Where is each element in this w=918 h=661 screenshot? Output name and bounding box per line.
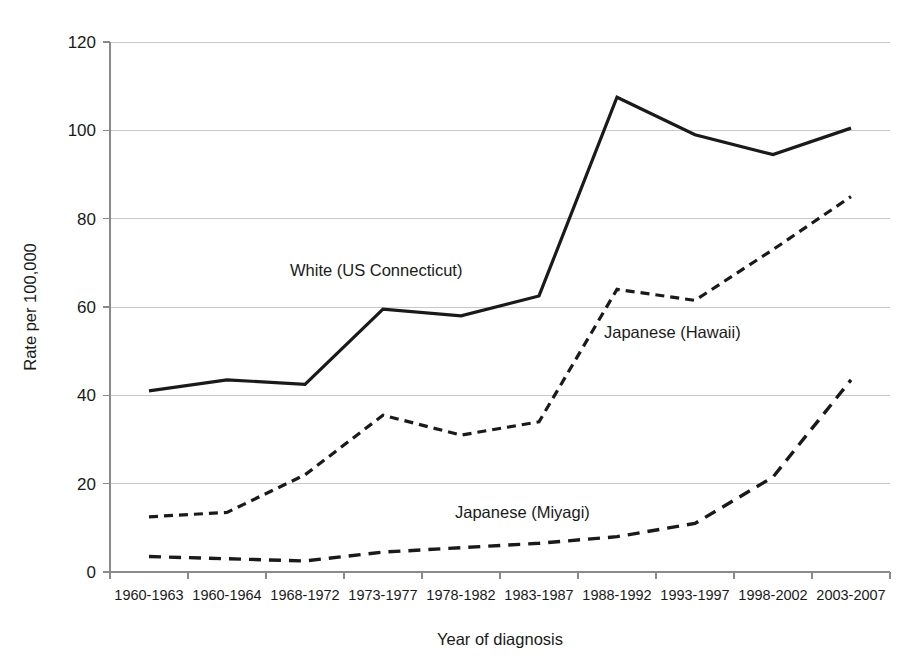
chart-container: 020406080100120 1960-19631960-19641968-1…: [0, 0, 918, 661]
y-tick-label: 40: [77, 386, 96, 405]
series-line: [149, 197, 851, 517]
series-annotation-label: Japanese (Miyagi): [455, 503, 590, 521]
y-tick-marks-group: [103, 42, 110, 572]
y-tick-label: 120: [68, 33, 96, 52]
y-tick-label: 0: [87, 563, 96, 582]
y-tick-label: 100: [68, 121, 96, 140]
x-tick-marks-group: [110, 572, 890, 579]
x-tick-label: 1998-2002: [738, 587, 807, 603]
x-tick-label: 1973-1977: [348, 587, 417, 603]
series-annotations-group: White (US Connecticut)Japanese (Hawaii)J…: [290, 261, 741, 521]
y-tick-label: 20: [77, 475, 96, 494]
line-chart: 020406080100120 1960-19631960-19641968-1…: [0, 0, 918, 661]
x-tick-label: 1983-1987: [504, 587, 573, 603]
y-tick-labels-group: 020406080100120: [68, 33, 96, 582]
x-tick-label: 2003-2007: [816, 587, 885, 603]
x-tick-label: 1960-1963: [114, 587, 183, 603]
series-annotation-label: Japanese (Hawaii): [604, 323, 741, 341]
x-tick-label: 1988-1992: [582, 587, 651, 603]
x-tick-labels-group: 1960-19631960-19641968-19721973-19771978…: [114, 587, 885, 603]
x-tick-label: 1978-1982: [426, 587, 495, 603]
series-annotation-label: White (US Connecticut): [290, 261, 462, 279]
series-group: [149, 97, 851, 561]
y-tick-label: 80: [77, 210, 96, 229]
y-axis-title: Rate per 100,000: [21, 243, 39, 371]
x-tick-label: 1968-1972: [270, 587, 339, 603]
x-tick-label: 1960-1964: [192, 587, 261, 603]
y-tick-label: 60: [77, 298, 96, 317]
series-line: [149, 97, 851, 391]
series-line: [149, 380, 851, 561]
x-tick-label: 1993-1997: [660, 587, 729, 603]
x-axis-title: Year of diagnosis: [437, 630, 563, 648]
